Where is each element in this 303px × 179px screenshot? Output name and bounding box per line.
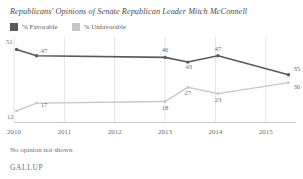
legend-swatch-favorable — [10, 23, 18, 31]
data-point-label: 27 — [184, 89, 191, 96]
x-tick-label-2011: 2011 — [57, 128, 71, 136]
x-axis-labels: 201020112012201320142015 — [0, 128, 303, 140]
x-tick-label-2015: 2015 — [259, 128, 273, 136]
data-point-label: 46 — [162, 46, 169, 53]
chart-legend: % Favorable % Unfavorable — [10, 21, 126, 32]
data-point-label: 51 — [6, 38, 13, 45]
plot-area: 514746434735121718272330 — [0, 34, 303, 126]
line-chart-svg: 514746434735121718272330 — [0, 34, 303, 126]
data-point — [287, 73, 290, 76]
footnote-no-opinion: No opinion not shown — [10, 146, 72, 154]
data-point — [164, 100, 167, 103]
data-point-label: 43 — [185, 63, 192, 70]
legend-item-favorable: % Favorable — [10, 23, 58, 31]
data-point-label: 17 — [41, 101, 48, 108]
x-tick-label-2012: 2012 — [108, 128, 122, 136]
data-point-label: 30 — [293, 83, 300, 90]
series-line-favorable — [17, 49, 289, 74]
chart-card: Republicans' Opinions of Senate Republic… — [0, 0, 303, 179]
data-point — [35, 54, 38, 57]
x-tick-label-2013: 2013 — [158, 128, 172, 136]
data-point — [35, 102, 38, 105]
data-point — [217, 92, 220, 95]
data-point-label: 12 — [7, 113, 14, 120]
gridlines — [14, 37, 266, 122]
legend-label-unfavorable: % Unfavorable — [84, 23, 127, 31]
chart-title: Republicans' Opinions of Senate Republic… — [10, 7, 300, 17]
series-line-unfavorable — [17, 83, 289, 111]
data-point-label: 18 — [162, 104, 169, 111]
data-point — [216, 54, 219, 57]
brand-label: GALLUP — [10, 163, 43, 172]
legend-label-favorable: % Favorable — [22, 23, 58, 31]
data-point — [186, 86, 189, 89]
data-point-label: 23 — [215, 96, 222, 103]
x-tick-label-2010: 2010 — [7, 128, 21, 136]
legend-swatch-unfavorable — [72, 23, 80, 31]
data-point-label: 47 — [41, 47, 48, 54]
data-point — [15, 48, 18, 51]
data-point — [15, 110, 18, 113]
data-point — [287, 81, 290, 84]
data-point — [163, 56, 166, 59]
data-point-label: 35 — [293, 65, 300, 72]
data-point-label: 47 — [215, 45, 222, 52]
x-tick-label-2014: 2014 — [208, 128, 222, 136]
series-layer — [15, 48, 290, 113]
legend-item-unfavorable: % Unfavorable — [72, 23, 127, 31]
point-labels-layer: 514746434735121718272330 — [6, 38, 301, 120]
